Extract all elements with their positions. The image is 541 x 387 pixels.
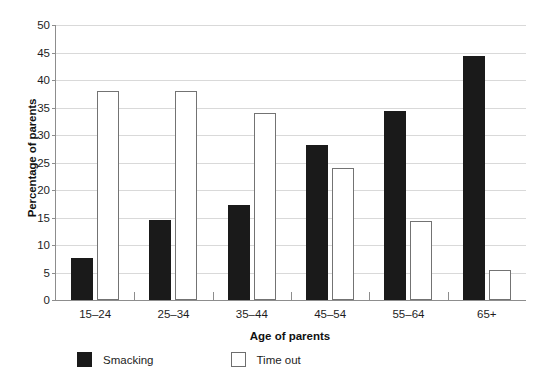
y-tick-label: 50	[37, 19, 50, 31]
x-tick-label: 25–34	[157, 308, 189, 320]
y-tick-label: 0	[44, 294, 50, 306]
bar-groups: 15–2425–3435–4445–5455–6465+	[56, 25, 526, 300]
y-tick-label: 25	[37, 157, 50, 169]
legend-entry[interactable]: Smacking	[77, 352, 154, 367]
x-axis-title: Age of parents	[55, 330, 525, 342]
y-tick-mark	[52, 300, 56, 301]
bar-smacking[interactable]	[306, 145, 328, 300]
y-tick-label: 10	[37, 239, 50, 251]
legend-entry[interactable]: Time out	[231, 352, 301, 367]
y-tick-label: 40	[37, 74, 50, 86]
plot-area: 05101520253035404550 15–2425–3435–4445–5…	[55, 25, 526, 301]
x-tick-label: 35–44	[236, 308, 268, 320]
bar-smacking[interactable]	[228, 205, 250, 300]
x-tick-label: 65+	[477, 308, 497, 320]
x-tick-label: 15–24	[79, 308, 111, 320]
bar-smacking[interactable]	[384, 111, 406, 300]
legend-label: Smacking	[103, 354, 154, 366]
bar-time-out[interactable]	[489, 270, 511, 300]
bar-smacking[interactable]	[463, 56, 485, 300]
y-tick-label: 30	[37, 129, 50, 141]
bar-time-out[interactable]	[254, 113, 276, 300]
bar-group: 55–64	[369, 25, 447, 300]
bar-smacking[interactable]	[71, 258, 93, 300]
y-tick-label: 20	[37, 184, 50, 196]
bar-time-out[interactable]	[97, 91, 119, 300]
legend: SmackingTime out	[55, 352, 525, 367]
bar-chart: Percentage of parents 051015202530354045…	[0, 0, 541, 387]
bar-group: 25–34	[134, 25, 212, 300]
x-tick-label: 45–54	[314, 308, 346, 320]
bar-group: 45–54	[291, 25, 369, 300]
bar-time-out[interactable]	[332, 168, 354, 300]
bar-group: 35–44	[213, 25, 291, 300]
bar-group: 65+	[448, 25, 526, 300]
legend-label: Time out	[257, 354, 301, 366]
bar-smacking[interactable]	[149, 220, 171, 300]
x-tick-label: 55–64	[392, 308, 424, 320]
y-axis-title: Percentage of parents	[26, 43, 38, 273]
y-tick-label: 35	[37, 102, 50, 114]
y-tick-label: 15	[37, 212, 50, 224]
legend-solid-square-icon	[77, 352, 92, 367]
bar-time-out[interactable]	[175, 91, 197, 300]
legend-hollow-square-icon	[231, 352, 246, 367]
bar-time-out[interactable]	[410, 221, 432, 300]
bar-group: 15–24	[56, 25, 134, 300]
y-tick-label: 5	[44, 267, 50, 279]
y-tick-label: 45	[37, 47, 50, 59]
